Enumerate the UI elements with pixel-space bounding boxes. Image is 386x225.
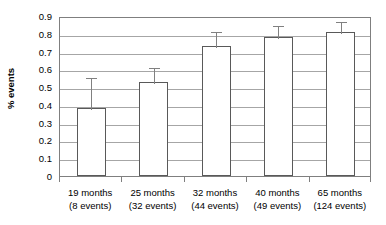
bar-chart: % events 00.10.20.30.40.50.60.70.80.9 19… [0,0,386,225]
error-bar-cap [211,32,222,33]
x-axis-tick [59,177,60,182]
x-axis-tick [370,177,371,182]
y-axis-tick-label: 0.1 [39,154,52,164]
y-axis-tick-label: 0 [47,172,52,182]
error-bar-stem [91,78,92,110]
x-axis-tick-label-line1: 32 months [193,187,237,198]
y-axis-title-text: % events [6,68,17,109]
bar [77,108,106,176]
y-axis-tick-label: 0.3 [39,119,52,129]
error-bar-cap [273,26,284,27]
y-axis-tick-label: 0.9 [39,12,52,22]
y-axis-tick-label: 0.4 [39,101,52,111]
x-axis-tick-labels: 19 months(8 events)25 months(32 events)3… [59,186,371,220]
y-axis-tick-label: 0.2 [39,137,52,147]
x-axis-tick-label-line1: 25 months [130,187,174,198]
x-axis-tick-label-line1: 19 months [68,187,112,198]
error-bar-cap [336,22,347,23]
x-axis-tick-label-line1: 40 months [255,187,299,198]
x-axis-tick [246,177,247,182]
y-axis-tick-label: 0.5 [39,83,52,93]
error-bar-cap [86,78,97,79]
x-axis-tick-label-line2: (49 events) [246,199,308,212]
x-axis-tick-label: 40 months(49 events) [246,186,308,212]
x-axis-ticks [59,177,371,182]
x-axis-tick-label-line1: 65 months [318,187,362,198]
x-axis-tick-label: 65 months(124 events) [309,186,371,212]
error-bar-stem [341,22,342,34]
error-bar-stem [278,26,279,39]
y-axis-tick-label: 0.6 [39,66,52,76]
bars-layer [60,18,370,176]
x-axis-tick-label-line2: (124 events) [309,199,371,212]
bar [326,32,355,176]
x-axis-tick [309,177,310,182]
x-axis-tick-label: 19 months(8 events) [59,186,121,212]
y-axis-title: % events [2,0,20,177]
y-axis-tick-label: 0.8 [39,30,52,40]
x-axis-tick [184,177,185,182]
x-axis-tick-label-line2: (8 events) [59,199,121,212]
error-bar-cap [149,68,160,69]
error-bar-stem [154,68,155,84]
x-axis-tick-label: 25 months(32 events) [121,186,183,212]
x-axis-tick [121,177,122,182]
y-axis-tick-labels: 00.10.20.30.40.50.60.70.80.9 [20,17,56,177]
plot-area [59,17,371,177]
error-bar-stem [216,32,217,48]
x-axis-tick-label: 32 months(44 events) [184,186,246,212]
x-axis-tick-label-line2: (44 events) [184,199,246,212]
bar [264,37,293,176]
x-axis-tick-label-line2: (32 events) [121,199,183,212]
y-axis-tick-label: 0.7 [39,48,52,58]
bar [139,82,168,176]
bar [202,46,231,176]
